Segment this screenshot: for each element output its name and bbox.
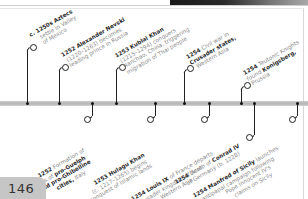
top-divider-secondary bbox=[0, 8, 302, 9]
event-label-teutonic: 1254 Teutonic Knights found Konigsberg, … bbox=[242, 39, 307, 88]
event-marker-icon bbox=[246, 134, 253, 141]
connector-kublai bbox=[116, 70, 117, 103]
axis-dot-icon bbox=[115, 102, 118, 105]
axis-dot-icon bbox=[26, 102, 29, 105]
axis-dot-icon bbox=[183, 102, 186, 105]
connector-crusader-civil-war bbox=[184, 72, 185, 103]
connector-conrad bbox=[254, 103, 255, 135]
event-label-crusader-civil-war: 1254 Civil war in Crusader states, Weste… bbox=[185, 29, 240, 72]
connector-aztecs bbox=[27, 50, 28, 103]
axis-dot-icon bbox=[253, 102, 256, 105]
axis-dot-icon bbox=[208, 102, 211, 105]
axis-dot-icon bbox=[296, 102, 299, 105]
page-number: 146 bbox=[8, 181, 34, 196]
axis-dot-icon bbox=[58, 102, 61, 105]
axis-dot-icon bbox=[240, 102, 243, 105]
timeline-page: c. 1250s Aztecs settle in Valley of Mexi… bbox=[0, 0, 308, 199]
event-marker-icon bbox=[201, 116, 208, 123]
event-marker-icon bbox=[289, 116, 296, 123]
event-marker-icon bbox=[147, 116, 154, 123]
connector-nevski bbox=[59, 70, 60, 103]
event-label-aztecs: c. 1250s Aztecs settle in Valley of Mexi… bbox=[28, 8, 80, 50]
axis-dot-icon bbox=[91, 102, 94, 105]
event-marker-icon bbox=[84, 116, 91, 123]
axis-dot-icon bbox=[154, 102, 157, 105]
top-divider bbox=[0, 5, 308, 6]
connector-teutonic bbox=[241, 89, 242, 103]
